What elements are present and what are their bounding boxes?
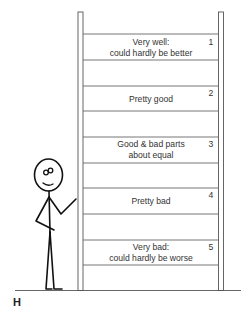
rung-2-label: Pretty good (84, 94, 218, 105)
rung-1-line2: could hardly be better (84, 48, 218, 59)
ladder-right-rail (219, 12, 224, 291)
rung-5-line2: could hardly be worse (84, 253, 218, 264)
rung-1-label: Very well: could hardly be better (84, 37, 218, 59)
rung-4-number: 4 (206, 190, 216, 200)
rung-4-label: Pretty bad (84, 196, 218, 207)
rung-3-line1: Good & bad parts (84, 139, 218, 150)
rung-3-number: 3 (206, 139, 216, 149)
figure-panel-label: H (13, 296, 21, 308)
ladder-left-rail (78, 12, 83, 291)
rung-2-number: 2 (206, 88, 216, 98)
rung-5-number: 5 (206, 242, 216, 252)
rung-3-label: Good & bad parts about equal (84, 139, 218, 161)
rung-1-line1: Very well: (84, 37, 218, 48)
stick-figure-icon (35, 159, 77, 289)
rung-4-line1: Pretty bad (84, 196, 218, 207)
rung-5-line1: Very bad: (84, 242, 218, 253)
rung-1-number: 1 (206, 37, 216, 47)
rung-3-line2: about equal (84, 150, 218, 161)
rung-2-line1: Pretty good (84, 94, 218, 105)
rung-5-label: Very bad: could hardly be worse (84, 242, 218, 264)
